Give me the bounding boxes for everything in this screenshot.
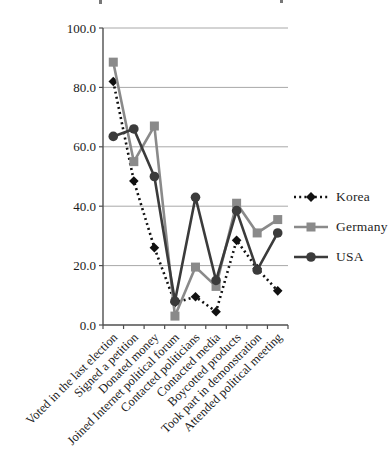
- marker-circle-usa: [273, 228, 283, 238]
- marker-circle-usa: [191, 192, 201, 202]
- legend-label-korea: Korea: [336, 189, 370, 205]
- marker-square-germany: [109, 58, 118, 67]
- y-tick-label: 100.0: [67, 21, 96, 36]
- legend-label-usa: USA: [336, 249, 364, 265]
- marker-square-germany: [273, 215, 282, 224]
- y-tick-label: 40.0: [73, 199, 96, 214]
- y-tick-label: 20.0: [73, 258, 96, 273]
- marker-circle-usa: [211, 276, 221, 286]
- y-tick-label: 80.0: [73, 80, 96, 95]
- series-line-germany: [113, 62, 277, 316]
- legend-label-germany: Germany: [336, 219, 388, 235]
- legend: Korea Germany USA: [293, 190, 388, 264]
- marker-diamond-korea: [129, 176, 139, 186]
- marker-circle-usa: [108, 132, 118, 142]
- marker-square-germany: [191, 263, 200, 272]
- marker-diamond-korea: [150, 243, 160, 253]
- marker-circle-usa: [232, 206, 242, 216]
- usa-line-marker-icon: [293, 251, 329, 263]
- legend-item-korea: Korea: [293, 190, 388, 204]
- marker-square-germany: [170, 312, 179, 321]
- legend-item-germany: Germany: [293, 220, 388, 234]
- y-tick-label: 0.0: [80, 318, 96, 333]
- marker-circle-usa: [150, 172, 160, 182]
- chart-container: 0.020.040.060.080.0100.0Voted in the las…: [0, 0, 388, 469]
- marker-diamond-korea: [232, 236, 242, 246]
- korea-line-marker-icon: [293, 191, 329, 203]
- legend-item-usa: USA: [293, 250, 388, 264]
- marker-square-germany: [253, 228, 262, 237]
- marker-square-germany: [150, 122, 159, 131]
- marker-circle-usa: [252, 265, 262, 275]
- germany-line-marker-icon: [293, 221, 329, 233]
- marker-circle-usa: [129, 124, 139, 134]
- marker-square-germany: [129, 157, 138, 166]
- y-tick-label: 60.0: [73, 139, 96, 154]
- marker-circle-usa: [170, 296, 180, 306]
